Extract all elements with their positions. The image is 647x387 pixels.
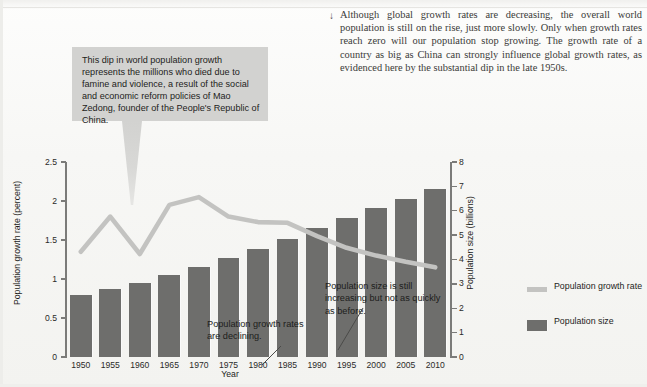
- legend-swatch-line: [527, 287, 547, 292]
- legend-label-growth-rate: Population growth rate: [554, 281, 644, 292]
- legend-label-population-size: Population size: [554, 316, 644, 327]
- figure-page: ↓ Although global growth rates are decre…: [0, 0, 647, 387]
- population-chart: Population growth rate (percent) Populat…: [0, 150, 520, 387]
- legend-swatch-bar: [527, 320, 548, 331]
- callout-text: This dip in world population growth repr…: [82, 54, 260, 127]
- chart-legend: Population growth rate Population size: [527, 282, 645, 352]
- callout-box: This dip in world population growth repr…: [72, 47, 268, 121]
- annotation-leader-lines: [0, 150, 520, 387]
- legend-item-growth-rate: Population growth rate: [527, 282, 645, 304]
- down-arrow-icon: ↓: [329, 10, 334, 22]
- body-paragraph: Although global growth rates are decreas…: [340, 8, 642, 74]
- legend-item-population-size: Population size: [527, 317, 645, 339]
